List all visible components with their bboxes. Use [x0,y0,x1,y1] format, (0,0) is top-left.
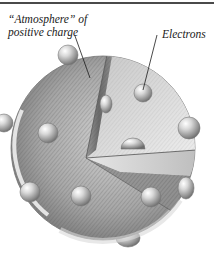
electron [141,187,161,207]
electron-half-in-wedge [100,95,112,113]
electron [178,177,194,199]
electron [38,123,58,143]
plum-pudding-atom-figure: “Atmosphere” of positive charge Electron… [0,0,214,263]
electron [178,117,200,139]
atmosphere-label-line1: “Atmosphere” of [8,13,87,26]
atmosphere-label: “Atmosphere” of positive charge [8,13,87,39]
atmosphere-label-line2: positive charge [8,26,87,39]
electron [58,45,78,65]
electron [20,182,40,202]
electron-left-edge [0,114,13,132]
electrons-label: Electrons [162,28,206,41]
electron [134,84,152,102]
electron [71,186,91,206]
